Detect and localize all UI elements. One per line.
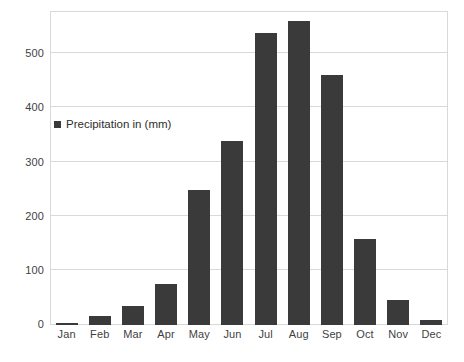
bar [420,320,442,325]
bar [288,21,310,325]
bar [188,190,210,325]
bar [255,33,277,325]
y-axis: 0100200300400500 [0,0,44,362]
bar [221,141,243,325]
y-tick-label: 0 [0,319,44,330]
bar [387,300,409,325]
bar [155,284,177,325]
legend-swatch-icon [54,121,61,128]
x-tick-label: Dec [411,328,451,341]
y-tick-label: 100 [0,265,44,276]
legend-item-label: Precipitation in (mm) [66,118,171,130]
precipitation-bar-chart: 0100200300400500 JanFebMarAprMayJunJulAu… [0,0,464,362]
x-axis: JanFebMarAprMayJunJulAugSepOctNovDec [50,328,448,348]
bar [354,239,376,325]
bar [89,316,111,325]
y-tick-label: 500 [0,48,44,59]
y-tick-label: 400 [0,102,44,113]
chart-legend: Precipitation in (mm) [54,118,171,130]
y-tick-label: 300 [0,157,44,168]
y-tick-label: 200 [0,211,44,222]
bar [321,75,343,325]
bar [56,323,78,325]
bars-layer [50,11,448,325]
bar [122,306,144,325]
